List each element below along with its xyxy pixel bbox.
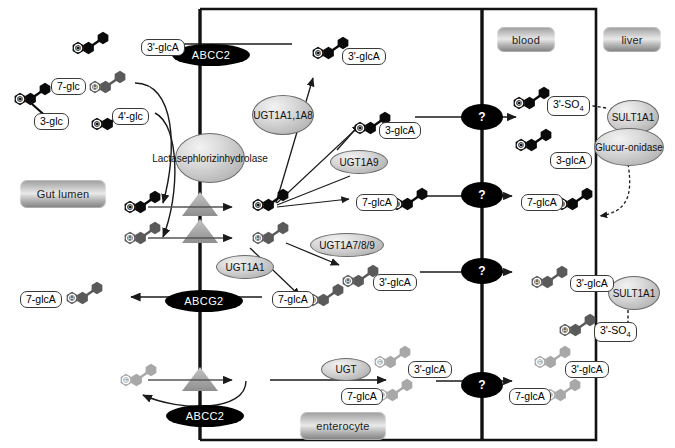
chem-label-lumen-7-glc: 7-glc xyxy=(51,78,86,95)
chem-label-ent-7-glcA-row: 7-glcA xyxy=(356,194,398,211)
molecule-glyph-2: O xyxy=(15,83,51,105)
svg-text:E: E xyxy=(538,359,542,365)
molecule-glyph-9: H xyxy=(253,222,289,244)
chem-label-ent-3prime-glcA-top: 3'-glcA xyxy=(342,48,386,65)
svg-text:H: H xyxy=(563,327,567,333)
svg-text:O: O xyxy=(358,125,363,131)
enzyme-ugt1a1-1a8: UGT1A1,1A8 xyxy=(252,95,314,135)
svg-text:O: O xyxy=(76,45,81,51)
compartment-label-liver: liver xyxy=(603,27,661,52)
molecule-glyph-18: O xyxy=(516,129,552,151)
chem-label-ent-3prime-glcA-bottom: 3'-glcA xyxy=(408,361,452,378)
molecule-glyph-7: E xyxy=(121,364,157,386)
chem-label-lumen-7-glcA-abcg2: 7-glcA xyxy=(20,291,62,308)
molecule-glyph-layer: OHOOOHHEOHOOOHHEEOOOHHEE xyxy=(15,32,596,401)
chem-label-blood-3prime-glcA-bottom: 3'-glcA xyxy=(565,361,609,378)
svg-text:H: H xyxy=(128,235,132,241)
arrow-glucuronidase-dashed xyxy=(600,164,630,216)
chem-label-ent-7-glcA-abcg2: 7-glcA xyxy=(272,291,314,308)
unknown-transport-4: ? xyxy=(461,372,503,398)
chem-label-blood-3prime-SO4-bottom: 3'-SO4 xyxy=(594,322,637,342)
transporter-abcc2-bottom: ABCC2 xyxy=(166,405,244,427)
svg-text:O: O xyxy=(128,204,133,210)
unknown-transport-1: ? xyxy=(461,104,503,130)
enzyme-ugt1a9: UGT1A9 xyxy=(330,150,388,174)
enzyme-glucuronidase: Glucur-onidase xyxy=(594,128,664,166)
molecule-glyph-5: H xyxy=(125,222,161,244)
enzyme-ugt: UGT xyxy=(321,358,371,381)
chem-label-blood-3prime-SO4-top: 3'-SO4 xyxy=(547,96,590,116)
svg-text:H: H xyxy=(346,278,350,284)
molecule-glyph-1: H xyxy=(90,71,126,93)
pathway-diagram-canvas: OHOOOHHEOHOOOHHEEOOOHHEE Gut lumenbloodl… xyxy=(0,0,675,448)
compartment-label-gut-lumen: Gut lumen xyxy=(20,180,106,208)
svg-text:E: E xyxy=(378,359,382,365)
unknown-transport-3: ? xyxy=(461,258,503,284)
svg-text:H: H xyxy=(256,235,260,241)
molecule-glyph-8: O xyxy=(253,189,289,211)
chem-label-lumen-4prime-glc: 4'-glc xyxy=(112,108,149,125)
svg-text:H: H xyxy=(535,279,539,285)
svg-text:O: O xyxy=(316,50,321,56)
svg-text:O: O xyxy=(517,100,522,106)
svg-text:E: E xyxy=(124,377,128,383)
compartment-label-blood: blood xyxy=(497,27,555,52)
transporter-abcg2: ABCG2 xyxy=(165,290,243,312)
arrow-7glc-to-aglycone xyxy=(135,83,171,203)
chem-label-ent-3prime-glcA-mid: 3'-glcA xyxy=(373,274,417,291)
chem-label-blood-7-glcA: 7-glcA xyxy=(521,194,563,211)
svg-text:O: O xyxy=(95,121,100,127)
chem-label-lumen-3-glc: 3-glc xyxy=(34,113,69,130)
molecule-glyph-0: O xyxy=(73,32,109,54)
chem-label-blood-3prime-glcA-mid: 3'-glcA xyxy=(570,275,614,292)
compartment-label-enterocyte: enterocyte xyxy=(300,412,386,440)
enzyme-lactase-phlorizin-hydrolase: Lactasephlorizinhydrolase xyxy=(175,133,245,183)
arrow-4glc-to-aglycone xyxy=(155,113,175,237)
enzyme-sult1a1-bottom: SULT1A1 xyxy=(608,276,660,310)
enzyme-ugt1a7-8-9: UGT1A7/8/9 xyxy=(310,233,384,257)
svg-text:H: H xyxy=(93,84,97,90)
chem-label-lumen-3prime-glcA: 3'-glcA xyxy=(141,39,185,56)
svg-text:H: H xyxy=(70,295,74,301)
svg-text:O: O xyxy=(18,96,23,102)
molecule-glyph-4: O xyxy=(125,191,161,213)
chem-label-blood-3-glcA: 3-glcA xyxy=(550,152,592,169)
molecule-glyph-6: H xyxy=(67,282,103,304)
chem-label-ent-7-glcA-bottom: 7-glcA xyxy=(341,388,383,405)
molecule-glyph-15: E xyxy=(375,346,411,368)
chem-label-ent-3-glcA: 3-glcA xyxy=(379,122,421,139)
chem-label-blood-7-glcA-bottom: 7-glcA xyxy=(509,388,551,405)
svg-text:O: O xyxy=(519,142,524,148)
molecule-glyph-17: O xyxy=(514,87,550,109)
diagram-vector-layer: OHOOOHHEOHOOOHHEEOOOHHEE xyxy=(0,0,675,448)
svg-text:O: O xyxy=(256,202,261,208)
molecule-glyph-20: H xyxy=(532,266,568,288)
enterocyte-boundary xyxy=(200,9,596,440)
enzyme-ugt1a1: UGT1A1 xyxy=(216,255,274,279)
molecule-glyph-21: H xyxy=(560,314,596,336)
unknown-transport-2: ? xyxy=(461,182,503,208)
